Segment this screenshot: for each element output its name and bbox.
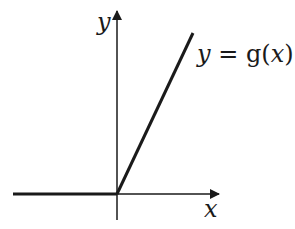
- curve-label-arg: x: [271, 40, 285, 68]
- curve-label-var: y: [196, 40, 211, 68]
- curve-label: y = g(x): [196, 40, 294, 68]
- curve-label-close: ): [284, 40, 293, 68]
- graph-diagram: y x y = g(x): [0, 0, 295, 229]
- curve-rising-segment: [117, 33, 193, 194]
- curve-label-eq: =: [211, 40, 246, 68]
- curve-label-fn: g(: [246, 40, 271, 68]
- y-axis-label: y: [96, 8, 111, 36]
- x-axis-label: x: [204, 195, 218, 223]
